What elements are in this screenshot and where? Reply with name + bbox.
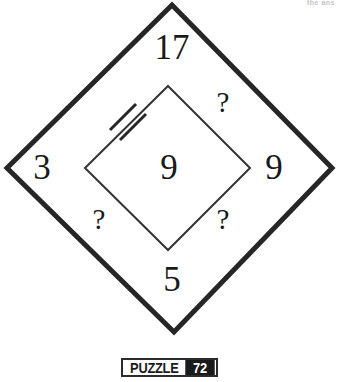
puzzle-page: the ans 17 3 9 5 9 ? ? ? PUZZLE 72	[0, 0, 339, 382]
value-right: 9	[252, 150, 296, 185]
value-center: 9	[142, 150, 196, 185]
puzzle-figure: 17 3 9 5 9 ? ? ?	[0, 0, 339, 340]
unknown-bottom-left: ?	[82, 205, 116, 234]
double-tick-congruence-marks	[110, 104, 146, 140]
puzzle-badge-word: PUZZLE	[125, 360, 182, 375]
puzzle-badge-number: 72	[186, 360, 215, 375]
puzzle-badge: PUZZLE 72	[0, 358, 339, 377]
value-top: 17	[140, 30, 204, 65]
value-left: 3	[20, 150, 64, 185]
unknown-bottom-right: ?	[206, 205, 240, 234]
puzzle-badge-inner: PUZZLE 72	[121, 358, 219, 377]
unknown-top-right: ?	[206, 88, 240, 117]
value-bottom: 5	[142, 262, 202, 297]
